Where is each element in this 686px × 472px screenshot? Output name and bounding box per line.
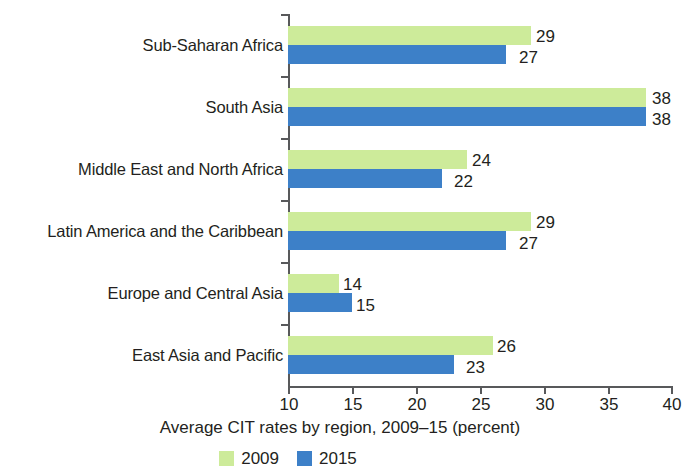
x-axis-tick-label-20: 20 [397, 396, 437, 413]
x-axis-tick [544, 386, 546, 394]
bar-2015-sub-saharan-africa [288, 45, 506, 64]
category-label-latin-america-and-the-caribbean: Latin America and the Caribbean [0, 223, 283, 240]
category-label-sub-saharan-africa: Sub-Saharan Africa [0, 37, 283, 54]
x-axis-tick [416, 386, 418, 394]
bar-value-2009-latin-america-and-the-caribbean: 29 [536, 214, 555, 231]
bar-value-2015-east-asia-and-pacific: 23 [466, 359, 485, 376]
category-label-south-asia: South Asia [0, 99, 283, 116]
bar-2015-middle-east-and-north-africa [288, 169, 442, 188]
legend-label-2015: 2015 [319, 450, 357, 467]
legend-item-2015: 2015 [297, 450, 357, 467]
bar-2009-sub-saharan-africa [288, 26, 531, 45]
bar-value-2015-south-asia: 38 [652, 111, 671, 128]
y-axis-tick [281, 324, 290, 326]
bar-2015-south-asia [288, 107, 646, 126]
bar-value-2015-europe-and-central-asia: 15 [356, 297, 375, 314]
x-axis-title: Average CIT rates by region, 2009–15 (pe… [0, 419, 686, 436]
bar-value-2015-latin-america-and-the-caribbean: 27 [519, 235, 538, 252]
y-axis-tick [281, 200, 290, 202]
x-axis-tick-label-10: 10 [269, 396, 309, 413]
x-axis-tick [352, 386, 354, 394]
bar-2015-europe-and-central-asia [288, 293, 352, 312]
bar-value-2009-sub-saharan-africa: 29 [536, 28, 555, 45]
x-axis-tick [288, 386, 290, 394]
bar-2015-latin-america-and-the-caribbean [288, 231, 506, 250]
y-axis-tick [281, 138, 290, 140]
y-axis-tick [281, 14, 290, 16]
x-axis-tick-label-35: 35 [589, 396, 629, 413]
bar-chart: Sub-Saharan Africa South Asia Middle Eas… [0, 0, 686, 472]
x-axis-tick-label-30: 30 [525, 396, 565, 413]
x-axis-tick-label-25: 25 [461, 396, 501, 413]
bar-value-2009-europe-and-central-asia: 14 [343, 276, 362, 293]
category-label-middle-east-and-north-africa: Middle East and North Africa [0, 161, 283, 178]
bar-2009-europe-and-central-asia [288, 274, 339, 293]
bar-2009-latin-america-and-the-caribbean [288, 212, 531, 231]
legend-swatch-2009-icon [219, 451, 234, 466]
x-axis-tick [608, 386, 610, 394]
category-label-east-asia-and-pacific: East Asia and Pacific [0, 347, 283, 364]
bar-2009-south-asia [288, 88, 646, 107]
bar-2015-east-asia-and-pacific [288, 355, 454, 374]
x-axis-tick [480, 386, 482, 394]
category-label-europe-and-central-asia: Europe and Central Asia [0, 285, 283, 302]
bar-2009-middle-east-and-north-africa [288, 150, 467, 169]
x-axis-tick [671, 386, 673, 394]
bar-value-2009-south-asia: 38 [652, 90, 671, 107]
y-axis-tick [281, 76, 290, 78]
bar-value-2015-middle-east-and-north-africa: 22 [454, 173, 473, 190]
bar-value-2009-east-asia-and-pacific: 26 [497, 338, 516, 355]
x-axis-tick-label-15: 15 [333, 396, 373, 413]
x-axis-tick-label-40: 40 [652, 396, 686, 413]
chart-legend: 2009 2015 [0, 450, 686, 467]
legend-swatch-2015-icon [297, 451, 312, 466]
legend-label-2009: 2009 [241, 450, 279, 467]
legend-item-2009: 2009 [219, 450, 279, 467]
bar-2009-east-asia-and-pacific [288, 336, 493, 355]
bar-value-2009-middle-east-and-north-africa: 24 [472, 152, 491, 169]
bar-value-2015-sub-saharan-africa: 27 [519, 49, 538, 66]
y-axis-tick [281, 262, 290, 264]
